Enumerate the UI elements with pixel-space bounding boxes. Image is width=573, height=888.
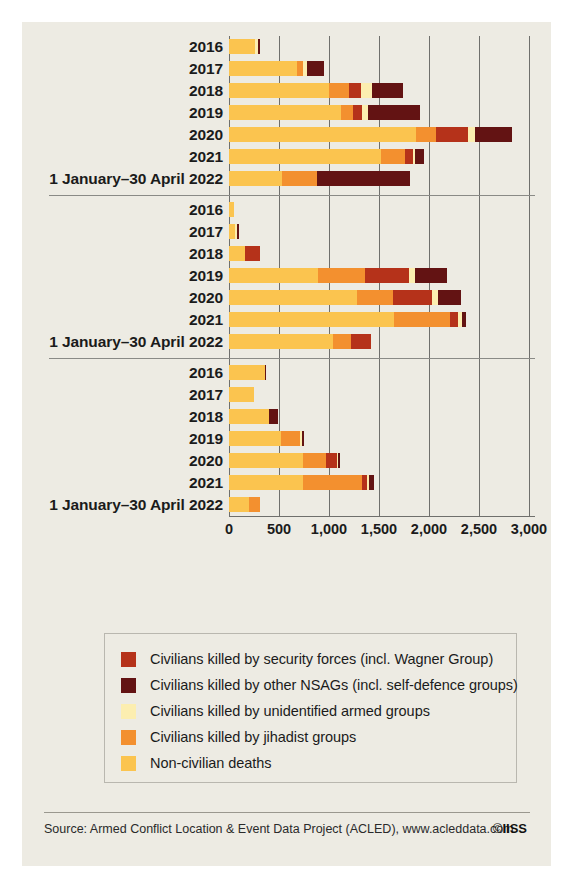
stacked-bar [229, 365, 266, 380]
legend-item-jihadist: Civilians killed by jihadist groups [121, 724, 516, 750]
bar-segment-non_civilian [229, 365, 265, 380]
y-axis-label-wrap: 2017 [43, 221, 223, 243]
bar-segment-other_nsags [368, 105, 420, 120]
y-axis-label-wrap: 2021 [43, 309, 223, 331]
bar-segment-other_nsags [475, 127, 512, 142]
bar-segment-jihadist [249, 497, 260, 512]
bar-segment-non_civilian [229, 475, 303, 490]
chart-row: 2020 [229, 287, 535, 309]
chart-row: 2018 [229, 80, 535, 102]
y-axis-label: 2018 [189, 80, 223, 102]
legend-swatch-unidentified [121, 704, 136, 719]
copyright-icon: © [493, 821, 503, 836]
bar-segment-other_nsags [302, 431, 304, 446]
y-axis-label: 2016 [189, 199, 223, 221]
bar-segment-jihadist [329, 83, 349, 98]
legend-swatch-other_nsags [121, 678, 136, 693]
y-axis-label-wrap: 2020 [43, 450, 223, 472]
chart-row: 2020 [229, 450, 535, 472]
bar-segment-non_civilian [229, 290, 357, 305]
y-axis-label: 2019 [189, 428, 223, 450]
legend-item-security_forces: Civilians killed by security forces (inc… [121, 646, 516, 672]
chart-legend: Civilians killed by security forces (inc… [104, 633, 517, 783]
bar-segment-non_civilian [229, 246, 245, 261]
chart-row: 2017 [229, 221, 535, 243]
y-axis-label-wrap: 2016 [43, 36, 223, 58]
stacked-bar [229, 224, 239, 239]
y-axis-label: 2020 [189, 287, 223, 309]
y-axis-label-wrap: 1 January–30 April 2022 [43, 494, 223, 516]
y-axis-label-wrap: 2019 [43, 265, 223, 287]
bar-segment-non_civilian [229, 61, 297, 76]
bar-segment-other_nsags [237, 224, 239, 239]
chart-row: 1 January–30 April 2022 [229, 331, 535, 353]
chart-row: 2018 [229, 406, 535, 428]
x-tick-label: 500 [267, 521, 291, 537]
chart-row: 1 January–30 April 2022 [229, 494, 535, 516]
bar-segment-security_forces [450, 312, 458, 327]
group-divider [49, 358, 535, 359]
legend-label: Civilians killed by unidentified armed g… [150, 703, 430, 719]
bar-segment-other_nsags [269, 409, 279, 424]
bar-segment-non_civilian [229, 149, 381, 164]
bar-segment-other_nsags [415, 149, 424, 164]
bar-segment-other_nsags [369, 475, 374, 490]
chart-row: 2019 [229, 265, 535, 287]
bar-segment-non_civilian [229, 453, 303, 468]
chart-row: 2016 [229, 199, 535, 221]
stacked-bar [229, 105, 420, 120]
y-axis-label-wrap: 2016 [43, 362, 223, 384]
y-axis-label-wrap: 2018 [43, 406, 223, 428]
x-tick-label: 0 [225, 521, 233, 537]
stacked-bar [229, 431, 304, 446]
y-axis-label: 2017 [189, 58, 223, 80]
y-axis-label-wrap: 2019 [43, 102, 223, 124]
group-divider [49, 195, 535, 196]
legend-item-other_nsags: Civilians killed by other NSAGs (incl. s… [121, 672, 516, 698]
bar-segment-non_civilian [229, 409, 269, 424]
y-axis-label-wrap: 2021 [43, 472, 223, 494]
legend-label: Civilians killed by security forces (inc… [150, 651, 493, 667]
bar-segment-security_forces [353, 105, 362, 120]
bar-segment-jihadist [341, 105, 354, 120]
bar-segment-non_civilian [229, 171, 282, 186]
y-axis-label: 2021 [189, 472, 223, 494]
chart-row: 2016 [229, 362, 535, 384]
stacked-bar [229, 475, 374, 490]
x-tick-label: 1,500 [361, 521, 397, 537]
bar-segment-non_civilian [229, 268, 318, 283]
bar-segment-security_forces [349, 83, 361, 98]
chart-row: 2021 [229, 309, 535, 331]
source-divider [44, 812, 530, 813]
bar-segment-other_nsags [415, 268, 447, 283]
plot-area: 05001,0001,5002,0002,5003,00020162017201… [229, 36, 535, 516]
y-axis-label-wrap: 2020 [43, 124, 223, 146]
bar-segment-non_civilian [229, 431, 281, 446]
y-axis-label: 1 January–30 April 2022 [49, 494, 223, 516]
bar-segment-security_forces [365, 268, 409, 283]
bar-segment-non_civilian [229, 387, 254, 402]
y-axis-label: 2021 [189, 146, 223, 168]
legend-swatch-security_forces [121, 652, 136, 667]
y-axis-label-wrap: 2017 [43, 384, 223, 406]
legend-swatch-jihadist [121, 730, 136, 745]
stacked-bar [229, 202, 234, 217]
stacked-bar [229, 334, 371, 349]
y-axis-label: 2018 [189, 406, 223, 428]
bar-segment-other_nsags [338, 453, 340, 468]
y-axis-label: 2021 [189, 309, 223, 331]
stacked-bar [229, 312, 466, 327]
y-axis-label: 2016 [189, 362, 223, 384]
stacked-bar [229, 387, 254, 402]
iiss-credit: ©IISS [493, 821, 527, 836]
iiss-label: IISS [502, 821, 527, 836]
y-axis-label: 1 January–30 April 2022 [49, 168, 223, 190]
chart-row: 1 January–30 April 2022 [229, 168, 535, 190]
chart-row: 2021 [229, 472, 535, 494]
bar-segment-other_nsags [258, 39, 260, 54]
x-tick-label: 2,000 [411, 521, 447, 537]
bar-segment-non_civilian [229, 497, 249, 512]
stacked-bar [229, 171, 410, 186]
x-tick-label: 1,000 [311, 521, 347, 537]
stacked-bar [229, 61, 324, 76]
